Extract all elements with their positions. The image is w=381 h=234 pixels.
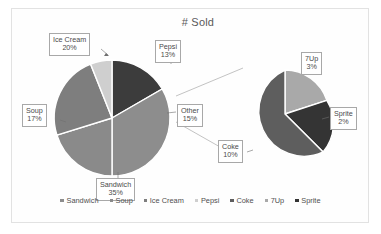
chart-legend: SandwichSoupIce CreamPepsiCoke7UpSprite bbox=[0, 196, 381, 205]
legend-item-coke[interactable]: Coke bbox=[230, 196, 253, 205]
data-label-soup-value: 17% bbox=[26, 115, 43, 123]
data-label-other: Other 15% bbox=[177, 104, 203, 127]
data-label-ice-cream-value: 20% bbox=[53, 44, 86, 52]
legend-swatch-icon bbox=[265, 199, 269, 203]
data-label-7up: 7Up 3% bbox=[301, 52, 322, 75]
legend-item-label: Sandwich bbox=[66, 196, 98, 205]
legend-item-label: Ice Cream bbox=[150, 196, 184, 205]
legend-item-sandwich[interactable]: Sandwich bbox=[60, 196, 98, 205]
data-label-soup: Soup 17% bbox=[22, 104, 47, 127]
legend-item-label: Soup bbox=[116, 196, 133, 205]
legend-item-pepsi[interactable]: Pepsi bbox=[195, 196, 220, 205]
legend-item-7up[interactable]: 7Up bbox=[265, 196, 285, 205]
legend-item-label: Sprite bbox=[301, 196, 320, 205]
legend-item-label: Pepsi bbox=[201, 196, 220, 205]
legend-item-label: 7Up bbox=[271, 196, 285, 205]
data-label-ice-cream: Ice Cream 20% bbox=[49, 33, 90, 56]
legend-item-sprite[interactable]: Sprite bbox=[295, 196, 320, 205]
primary-pie bbox=[54, 60, 170, 176]
chart-title: # Sold bbox=[138, 16, 258, 28]
legend-swatch-icon bbox=[195, 199, 199, 203]
data-label-coke: Coke 10% bbox=[218, 140, 243, 163]
data-label-sprite: Sprite 2% bbox=[330, 107, 357, 130]
data-label-sprite-value: 2% bbox=[334, 118, 353, 126]
legend-item-soup[interactable]: Soup bbox=[110, 196, 133, 205]
legend-swatch-icon bbox=[60, 199, 64, 203]
legend-item-ice-cream[interactable]: Ice Cream bbox=[144, 196, 184, 205]
data-label-other-value: 15% bbox=[181, 115, 199, 123]
legend-item-label: Coke bbox=[236, 196, 253, 205]
data-label-pepsi-value: 13% bbox=[159, 51, 177, 59]
data-label-coke-value: 10% bbox=[222, 151, 239, 159]
legend-swatch-icon bbox=[144, 199, 148, 203]
data-label-pepsi: Pepsi 13% bbox=[155, 40, 181, 63]
legend-swatch-icon bbox=[230, 199, 234, 203]
legend-swatch-icon bbox=[110, 199, 114, 203]
secondary-pie bbox=[259, 70, 334, 156]
chart-area: # Sold Ice Cream 20% Pepsi 13% Soup 17% … bbox=[0, 0, 381, 234]
legend-swatch-icon bbox=[295, 199, 299, 203]
data-label-7up-value: 3% bbox=[305, 63, 318, 71]
